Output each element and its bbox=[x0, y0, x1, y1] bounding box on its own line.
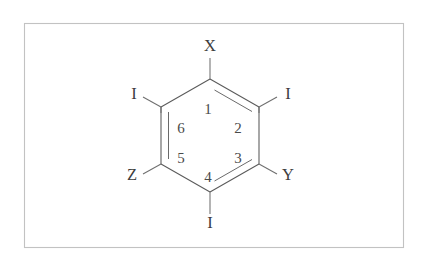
figure-frame bbox=[25, 24, 404, 248]
ring-edge-bottom-left bbox=[161, 164, 210, 192]
substituent-label-lower-right: Y bbox=[282, 165, 294, 184]
ring-position-1: 1 bbox=[204, 101, 212, 117]
substituent-label-lower-left: Z bbox=[127, 165, 137, 184]
substituent-label-upper-left: I bbox=[131, 84, 137, 103]
ring-edge-bottom-right bbox=[210, 164, 259, 192]
bond-to-upper-left-substituent bbox=[143, 97, 161, 107]
substituent-label-bottom: I bbox=[207, 213, 213, 232]
bond-to-lower-right-substituent bbox=[259, 164, 277, 174]
substituent-label-top: X bbox=[204, 36, 216, 55]
ring-position-2: 2 bbox=[234, 120, 242, 136]
ring-position-4: 4 bbox=[204, 169, 212, 185]
substituent-label-upper-right: I bbox=[285, 84, 291, 103]
ring-edge-top-right bbox=[210, 79, 259, 107]
double-bond-inner-upper-right bbox=[215, 90, 253, 112]
double-bond-inner-lower-right bbox=[215, 160, 253, 182]
figure-root: 1 2 3 4 5 6 X I I Y I Z bbox=[0, 0, 422, 263]
ring-position-labels: 1 2 3 4 5 6 bbox=[177, 101, 242, 185]
bond-to-upper-right-substituent bbox=[259, 97, 277, 107]
ring-edge-top-left bbox=[161, 79, 210, 107]
ring-position-3: 3 bbox=[234, 150, 242, 166]
ring-position-6: 6 bbox=[177, 120, 185, 136]
ring-structure-diagram: 1 2 3 4 5 6 X I I Y I Z bbox=[0, 0, 422, 263]
substituent-bonds bbox=[143, 58, 277, 214]
ring-position-5: 5 bbox=[177, 150, 185, 166]
bond-to-lower-left-substituent bbox=[143, 164, 161, 174]
